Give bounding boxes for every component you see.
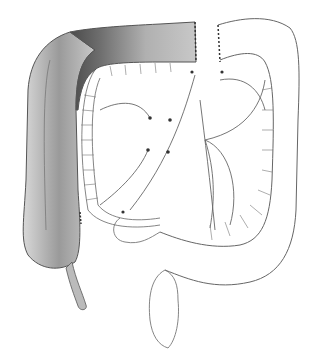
sigmoid-rectum [114,218,179,348]
mesenteric-vessels [100,75,265,230]
transverse-colon-left [70,22,196,110]
colon-drawing [0,0,318,358]
mesentery-left [81,63,171,227]
mesentery-right [210,88,273,240]
illustration [0,0,318,358]
